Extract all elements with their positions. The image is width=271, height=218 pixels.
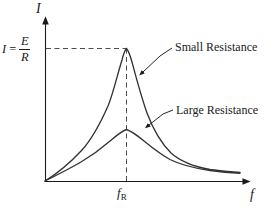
- imax-lhs-symbol: I: [2, 43, 6, 56]
- curve-large-resistance: [45, 130, 240, 182]
- callout-label-large-resistance: Large Resistance: [176, 104, 258, 116]
- y-axis-peak-current-label: I = E R: [2, 35, 30, 63]
- imax-numerator: E: [20, 35, 30, 49]
- callout-label-small-resistance: Small Resistance: [175, 41, 257, 53]
- y-axis-label: I: [36, 2, 41, 16]
- x-axis-tick-label-resonant-frequency: fR: [117, 186, 127, 202]
- callout-leader-large-resistance: [149, 110, 173, 125]
- imax-denominator: R: [20, 50, 30, 64]
- x-axis-label: f: [250, 188, 254, 202]
- imax-equals-sign: =: [8, 43, 17, 56]
- imax-fraction: E R: [19, 35, 30, 63]
- resonance-curve-figure: I f fR I = E R Small Resistance Large Re…: [0, 0, 271, 218]
- fr-subscript: R: [121, 192, 127, 202]
- callout-leader-small-resistance: [143, 48, 172, 72]
